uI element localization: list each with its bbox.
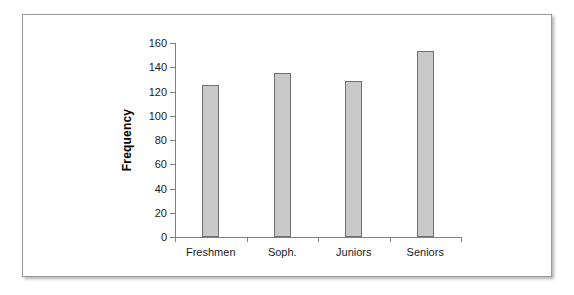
y-tick-mark (170, 164, 175, 165)
x-tick-mark (247, 237, 248, 242)
bar (345, 81, 362, 237)
y-tick-mark (170, 67, 175, 68)
x-category-label: Soph. (268, 247, 297, 258)
y-tick-mark (170, 213, 175, 214)
y-tick-label: 60 (155, 159, 167, 170)
x-category-label: Seniors (407, 247, 444, 258)
y-tick-mark (170, 43, 175, 44)
x-tick-mark (175, 237, 176, 242)
y-tick-label: 140 (149, 62, 167, 73)
y-axis-title: Frequency (120, 109, 134, 172)
x-tick-mark (461, 237, 462, 242)
bar (417, 51, 434, 237)
bar (274, 73, 291, 237)
plot-area: 020406080100120140160 FreshmenSoph.Junio… (175, 43, 461, 237)
y-tick-label: 40 (155, 183, 167, 194)
chart-frame: Frequency 020406080100120140160 Freshmen… (22, 14, 552, 277)
x-tick-mark (390, 237, 391, 242)
y-tick-label: 0 (161, 232, 167, 243)
x-category-label: Juniors (336, 247, 371, 258)
y-tick-mark (170, 92, 175, 93)
x-category-label: Freshmen (186, 247, 236, 258)
y-tick-mark (170, 140, 175, 141)
y-tick-label: 100 (149, 110, 167, 121)
y-tick-mark (170, 116, 175, 117)
bar (202, 85, 219, 237)
x-tick-mark (318, 237, 319, 242)
y-axis-line (175, 43, 176, 238)
y-tick-label: 160 (149, 38, 167, 49)
y-tick-label: 120 (149, 86, 167, 97)
y-tick-label: 80 (155, 135, 167, 146)
y-tick-mark (170, 189, 175, 190)
y-tick-label: 20 (155, 207, 167, 218)
